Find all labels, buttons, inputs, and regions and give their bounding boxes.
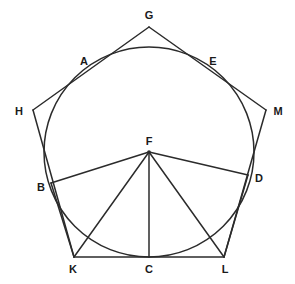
point-label-F: F xyxy=(146,136,153,147)
point-label-D: D xyxy=(255,173,263,184)
segment-D-L xyxy=(224,175,248,257)
point-label-C: C xyxy=(145,264,153,275)
radius-F-B xyxy=(51,152,149,183)
geometry-figure: GAEHMFBDKCL xyxy=(0,0,295,284)
center-point-F xyxy=(147,150,151,154)
vertex-dots-group xyxy=(147,150,151,154)
point-label-B: B xyxy=(37,182,45,193)
point-label-L: L xyxy=(222,264,229,275)
outer-edge-G-H xyxy=(33,27,149,110)
point-label-M: M xyxy=(273,106,282,117)
point-label-A: A xyxy=(80,56,88,67)
outer-edge-G-M xyxy=(149,27,266,110)
segment-F-K xyxy=(74,152,149,257)
point-label-G: G xyxy=(145,10,154,21)
point-label-K: K xyxy=(69,264,77,275)
segment-F-L xyxy=(149,152,224,257)
point-label-H: H xyxy=(15,106,23,117)
segment-B-K xyxy=(51,183,74,257)
point-label-E: E xyxy=(209,56,216,67)
